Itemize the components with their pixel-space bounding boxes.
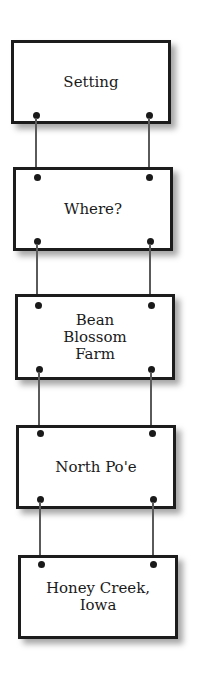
hook-dot-icon <box>37 430 44 437</box>
sign-label: Setting <box>57 74 124 91</box>
sign-label: Honey Creek, Iowa <box>21 580 175 614</box>
hook-dot-icon <box>150 561 157 568</box>
chain-link <box>150 372 152 430</box>
sign-label: Where? <box>58 201 128 218</box>
chain-link <box>36 244 38 300</box>
hook-dot-icon <box>149 430 156 437</box>
hook-dot-icon <box>146 174 153 181</box>
hook-dot-icon <box>35 302 42 309</box>
hook-dot-icon <box>38 561 45 568</box>
chain-link <box>39 502 41 562</box>
sign-label: Bean Blossom Farm <box>44 312 146 363</box>
chain-link <box>152 502 154 562</box>
hook-dot-icon <box>148 302 155 309</box>
chain-link <box>38 372 40 430</box>
sign-label: North Po'e <box>49 459 142 476</box>
hook-dot-icon <box>34 174 41 181</box>
chain-link <box>149 244 151 300</box>
